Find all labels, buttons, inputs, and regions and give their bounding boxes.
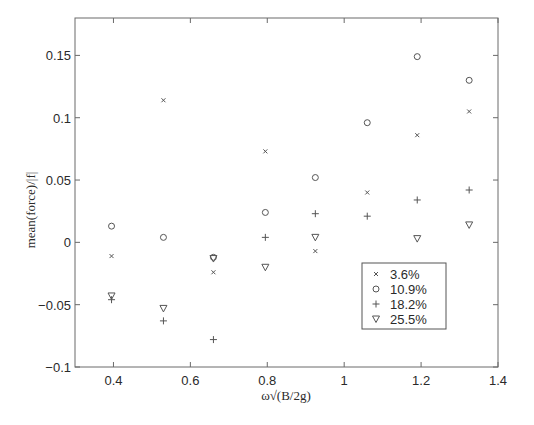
circle-marker-icon [262,209,268,215]
x-marker-icon [211,270,215,274]
plus-marker-icon [414,196,421,203]
circle-marker-icon [364,120,370,126]
circle-marker-icon [466,77,472,83]
circle-marker-icon [414,54,420,60]
plus-marker-icon [210,336,217,343]
triangle-down-marker-icon [262,264,269,271]
y-axis-label: mean(force)/|f| [23,172,38,249]
x-tick-label: 0.6 [181,373,199,388]
legend-label: 25.5% [390,312,427,327]
triangle-down-marker-icon [312,234,319,241]
legend-label: 3.6% [390,267,420,282]
x-marker-icon [365,191,369,195]
circle-marker-icon [160,234,166,240]
triangle-down-marker-icon [414,236,421,243]
x-marker-icon [110,254,114,258]
series-10-9- [109,54,473,261]
plus-marker-icon [262,234,269,241]
x-axis-label: ω√(B/2g) [261,388,311,403]
circle-marker-icon [312,175,318,181]
x-marker-icon [313,249,317,253]
y-tick-label: −0.1 [45,360,71,375]
y-tick-label: 0.1 [53,111,71,126]
triangle-down-marker-icon [160,305,167,312]
x-marker-icon [415,133,419,137]
x-tick-label: 1 [341,373,348,388]
circle-marker-icon [109,223,115,229]
legend-label: 10.9% [390,282,427,297]
x-marker-icon [263,149,267,153]
scatter-chart: 0.40.60.811.21.4−0.1−0.0500.050.10.15 3.… [0,0,534,425]
legend: 3.6%10.9%18.2%25.5% [362,263,446,329]
x-marker-icon [467,109,471,113]
plot-axes: 0.40.60.811.21.4−0.1−0.0500.050.10.15 [38,18,507,388]
plus-marker-icon [466,187,473,194]
y-tick-label: 0 [64,235,71,250]
y-tick-label: 0.15 [46,48,71,63]
triangle-down-marker-icon [466,222,473,229]
x-tick-label: 1.2 [412,373,430,388]
plus-marker-icon [364,213,371,220]
plus-marker-icon [160,317,167,324]
x-tick-label: 1.4 [489,373,507,388]
plus-marker-icon [312,210,319,217]
y-tick-label: −0.05 [38,298,71,313]
series-3-6- [110,98,472,274]
legend-label: 18.2% [390,297,427,312]
y-tick-label: 0.05 [46,173,71,188]
x-tick-label: 0.8 [258,373,276,388]
x-tick-label: 0.4 [104,373,122,388]
x-marker-icon [161,98,165,102]
